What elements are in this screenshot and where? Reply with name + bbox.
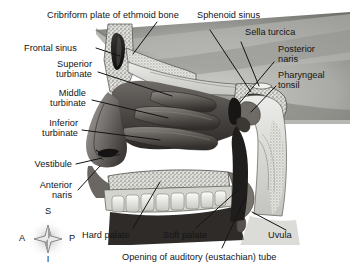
compass-label-posterior: P bbox=[66, 233, 78, 243]
label-hard-palate: Hard palate bbox=[82, 230, 130, 240]
label-auditory-tube: Opening of auditory (eustachian) tube bbox=[122, 252, 276, 262]
compass-label-anterior: A bbox=[16, 233, 28, 243]
label-sella-turcica: Sella turcica bbox=[245, 27, 295, 37]
label-cribriform-plate: Cribriform plate of ethmoid bone bbox=[47, 10, 179, 20]
label-frontal-sinus: Frontal sinus bbox=[24, 43, 77, 53]
label-sphenoid-sinus: Sphenoid sinus bbox=[197, 10, 260, 20]
label-posterior-naris: Posterior naris bbox=[278, 44, 315, 65]
label-middle-turbinate: Middle turbinate bbox=[0, 88, 86, 109]
label-uvula: Uvula bbox=[268, 230, 292, 240]
label-vestibule: Vestibule bbox=[0, 159, 72, 169]
label-anterior-naris: Anterior naris bbox=[0, 180, 72, 201]
compass-label-superior: S bbox=[42, 206, 54, 216]
orientation-compass bbox=[28, 219, 68, 259]
label-inferior-turbinate: Inferior turbinate bbox=[0, 118, 78, 139]
label-soft-palate: Soft palate bbox=[163, 230, 207, 240]
label-pharyngeal-tonsil: Pharyngeal tonsil bbox=[278, 70, 325, 91]
compass-label-inferior: I bbox=[42, 254, 54, 264]
label-superior-turbinate: Superior turbinate bbox=[0, 59, 92, 80]
